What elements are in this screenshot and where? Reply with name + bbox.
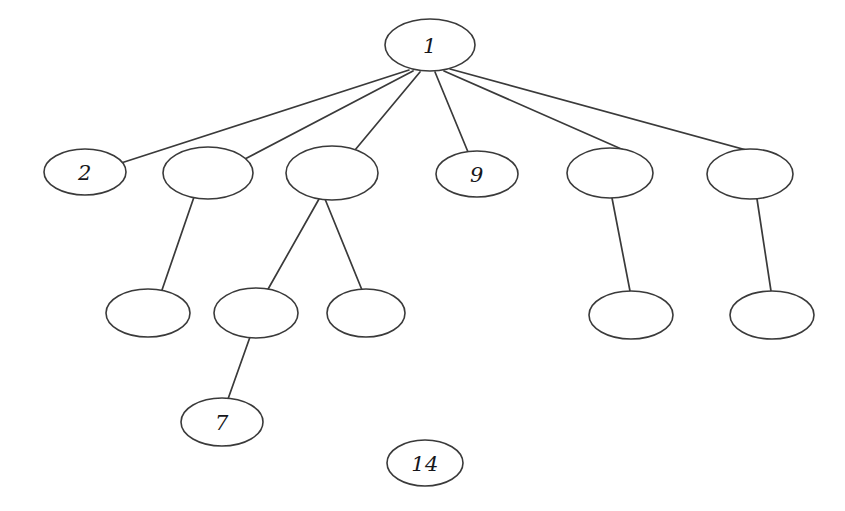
tree-edge — [612, 198, 630, 291]
tree-edge — [325, 199, 362, 290]
node-ellipse[interactable] — [707, 149, 793, 199]
tree-node[interactable] — [567, 148, 653, 198]
node-ellipse[interactable] — [214, 288, 298, 338]
node-ellipse[interactable] — [163, 147, 253, 199]
node-ellipse[interactable] — [567, 148, 653, 198]
node-layer: 129714 — [44, 19, 814, 486]
diagram-canvas: 129714 — [0, 0, 845, 511]
tree-edge — [162, 197, 194, 290]
node-ellipse[interactable] — [327, 289, 405, 337]
tree-node[interactable] — [163, 147, 253, 199]
tree-node[interactable] — [707, 149, 793, 199]
tree-node[interactable]: 1 — [385, 19, 475, 71]
node-label: 2 — [77, 161, 92, 185]
tree-node[interactable] — [214, 288, 298, 338]
tree-edge — [435, 72, 468, 152]
node-ellipse[interactable] — [730, 291, 814, 339]
tree-edge — [444, 71, 635, 155]
node-ellipse[interactable] — [286, 146, 378, 200]
edge-layer — [118, 69, 779, 399]
tree-node[interactable]: 7 — [181, 398, 263, 446]
tree-node[interactable] — [106, 289, 190, 337]
node-label: 7 — [215, 411, 229, 435]
tree-node[interactable] — [286, 146, 378, 200]
tree-edge — [228, 337, 250, 399]
tree-node[interactable] — [327, 289, 405, 337]
tree-graph: 129714 — [0, 0, 845, 511]
tree-node[interactable]: 2 — [44, 149, 126, 195]
tree-edge — [267, 199, 319, 291]
node-label: 1 — [423, 34, 437, 58]
node-ellipse[interactable] — [106, 289, 190, 337]
node-label: 9 — [470, 163, 484, 187]
tree-node[interactable] — [589, 291, 673, 339]
tree-node[interactable]: 9 — [436, 151, 518, 197]
node-ellipse[interactable] — [589, 291, 673, 339]
tree-node[interactable]: 14 — [387, 440, 463, 486]
tree-edge — [757, 199, 771, 291]
tree-node[interactable] — [730, 291, 814, 339]
node-label: 14 — [411, 452, 439, 476]
